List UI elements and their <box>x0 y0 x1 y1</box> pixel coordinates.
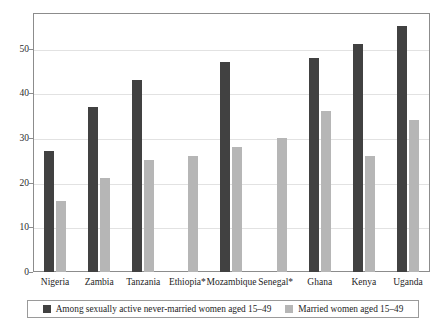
bar-never-married <box>397 26 407 272</box>
x-tick-label: Mozambique <box>206 275 256 289</box>
bar-married <box>232 147 242 272</box>
y-tick-label: 10 <box>3 222 29 232</box>
bar-never-married <box>132 80 142 272</box>
y-tick-label: 20 <box>3 178 29 188</box>
x-tick-label: Tanzania <box>126 275 160 289</box>
bar-group <box>386 13 430 272</box>
bar-married <box>144 160 154 272</box>
bar-chart: 01020304050 NigeriaZambiaTanzaniaEthiopi… <box>0 0 446 328</box>
y-axis: 01020304050 <box>0 13 29 272</box>
x-tick-label: Kenya <box>351 275 376 289</box>
legend-item-married: Married women aged 15–49 <box>285 304 403 315</box>
bar-group <box>121 13 165 272</box>
x-tick-label: Senegal* <box>258 275 293 289</box>
y-tick-label: 30 <box>3 133 29 143</box>
bar-never-married <box>309 58 319 272</box>
bars-layer <box>33 13 430 272</box>
bar-married <box>365 156 375 272</box>
bar-married <box>321 111 331 272</box>
bar-group <box>298 13 342 272</box>
bar-group <box>165 13 209 272</box>
bar-never-married <box>353 44 363 272</box>
legend-label: Married women aged 15–49 <box>298 304 403 315</box>
bar-group <box>77 13 121 272</box>
bar-group <box>209 13 253 272</box>
legend-item-never-married: Among sexually active never-married wome… <box>43 304 272 315</box>
x-tick-label: Zambia <box>85 275 114 289</box>
bar-group <box>342 13 386 272</box>
bar-married <box>100 178 110 272</box>
bar-never-married <box>220 62 230 272</box>
bar-married <box>409 120 419 272</box>
x-tick-label: Ghana <box>307 275 332 289</box>
y-tick-mark <box>29 272 33 273</box>
bar-married <box>188 156 198 272</box>
chart-legend: Among sexually active never-married wome… <box>27 300 419 318</box>
bar-married <box>277 138 287 272</box>
x-tick-label: Uganda <box>393 275 423 289</box>
y-tick-label: 0 <box>3 267 29 277</box>
bar-never-married <box>88 107 98 272</box>
x-axis-labels: NigeriaZambiaTanzaniaEthiopia*Mozambique… <box>33 275 430 291</box>
x-tick-label: Nigeria <box>41 275 70 289</box>
legend-label: Among sexually active never-married wome… <box>56 304 272 315</box>
y-tick-label: 40 <box>3 88 29 98</box>
legend-swatch-icon <box>43 305 51 313</box>
x-tick-label: Ethiopia* <box>169 275 206 289</box>
bar-group <box>254 13 298 272</box>
legend-swatch-icon <box>285 305 293 313</box>
bar-married <box>56 201 66 272</box>
bar-never-married <box>44 151 54 272</box>
y-tick-label: 50 <box>3 44 29 54</box>
bar-group <box>33 13 77 272</box>
